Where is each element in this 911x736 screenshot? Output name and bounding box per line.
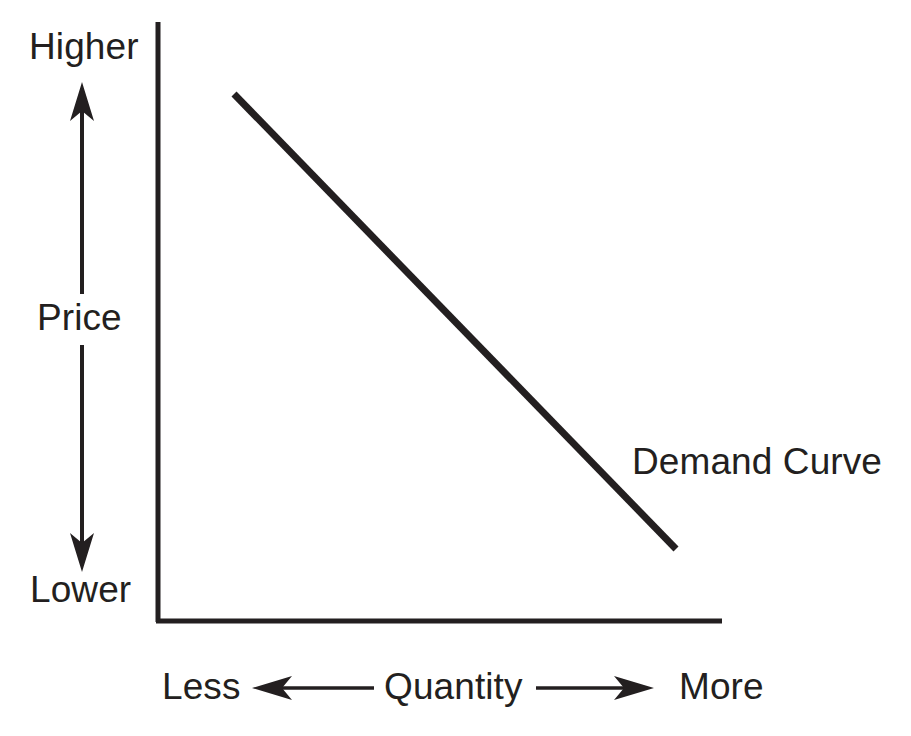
demand-curve-diagram: Higher Price Lower Demand Curve Less Qua… xyxy=(0,0,911,736)
y-axis-title: Price xyxy=(37,299,122,336)
x-axis-low-label: Less xyxy=(162,668,241,705)
y-axis-low-label: Lower xyxy=(30,571,131,608)
axes-group xyxy=(156,22,722,622)
demand-curve-group xyxy=(234,94,676,549)
x-axis-high-label: More xyxy=(679,668,764,705)
demand-curve-annotation: Demand Curve xyxy=(632,443,882,480)
y-axis-high-label: Higher xyxy=(29,28,139,65)
x-axis-title: Quantity xyxy=(384,668,523,705)
diagram-canvas xyxy=(0,0,911,736)
demand-curve-line xyxy=(234,94,676,549)
